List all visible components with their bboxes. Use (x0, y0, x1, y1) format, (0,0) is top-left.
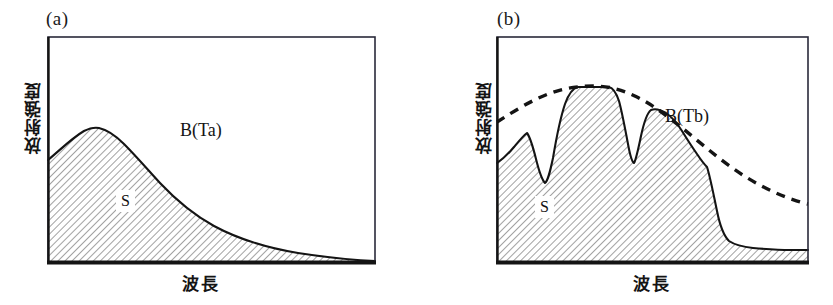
panel-a-area-fill (48, 128, 375, 262)
panel-a-plot (0, 0, 420, 305)
panel-b-area-label: S (535, 196, 554, 218)
figure-blackbody-radiation: (a) 放射強度 波長 B(Ta) S (b) 放射強度 波長 (0, 0, 833, 305)
panel-a-area-label: S (116, 190, 135, 212)
panel-b: (b) 放射強度 波長 B(Tb) S (413, 0, 833, 305)
panel-b-plot (413, 0, 833, 305)
panel-b-curve-label: B(Tb) (665, 106, 709, 127)
panel-a-curve-label: B(Ta) (180, 120, 222, 141)
panel-a: (a) 放射強度 波長 B(Ta) S (0, 0, 420, 305)
panel-b-area-fill (497, 87, 808, 262)
